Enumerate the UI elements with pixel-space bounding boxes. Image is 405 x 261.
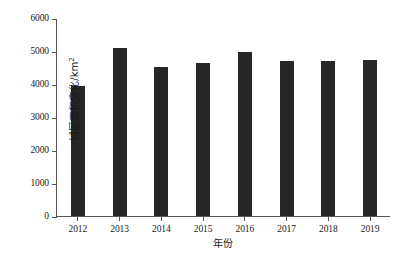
- x-axis-tick-mark: [203, 216, 204, 221]
- bar[interactable]: [196, 63, 210, 216]
- x-axis-tick-mark: [244, 216, 245, 221]
- x-axis-tick-mark: [77, 216, 78, 221]
- bar-group[interactable]: 2017: [280, 19, 294, 216]
- bar[interactable]: [238, 52, 252, 216]
- y-axis-title-text: 城区面积变化/km: [69, 62, 80, 141]
- y-axis-tick-label: 5000: [30, 45, 49, 58]
- bar-group[interactable]: 2015: [196, 19, 210, 216]
- bar-group[interactable]: 2016: [238, 19, 252, 216]
- plot-area: 0100020003000400050006000 20122013201420…: [56, 19, 390, 217]
- x-axis-tick-mark: [119, 216, 120, 221]
- bar-group[interactable]: 2018: [321, 19, 335, 216]
- y-axis-tick-label: 3000: [30, 111, 49, 124]
- x-axis-tick-mark: [370, 216, 371, 221]
- y-axis-tick-label: 6000: [30, 12, 49, 25]
- bar-group[interactable]: 2014: [154, 19, 168, 216]
- y-axis-tick-label: 1000: [30, 177, 49, 190]
- y-axis-title-exponent: 2: [68, 57, 76, 61]
- x-axis-tick-mark: [286, 216, 287, 221]
- x-axis-tick-label: 2012: [69, 223, 88, 235]
- bars-layer: 20122013201420152016201720182019: [57, 19, 390, 216]
- bar[interactable]: [113, 48, 127, 216]
- x-axis-tick-label: 2019: [361, 223, 380, 235]
- bar[interactable]: [280, 61, 294, 216]
- y-axis-tick-label: 0: [44, 210, 49, 223]
- x-axis-tick-label: 2016: [236, 223, 255, 235]
- x-axis-tick-label: 2017: [277, 223, 296, 235]
- bar[interactable]: [321, 61, 335, 216]
- y-axis-tick-label: 2000: [30, 144, 49, 157]
- y-axis-tick-mark: [52, 217, 57, 218]
- x-axis-title: 年份: [56, 238, 390, 250]
- y-axis-tick-label: 4000: [30, 78, 49, 91]
- y-axis-title: 城区面积变化/km2: [69, 19, 81, 179]
- x-axis-tick-label: 2015: [194, 223, 213, 235]
- x-axis-tick-label: 2013: [110, 223, 129, 235]
- x-axis-tick-mark: [328, 216, 329, 221]
- bar-chart: 0100020003000400050006000 20122013201420…: [0, 0, 405, 261]
- bar-group[interactable]: 2013: [113, 19, 127, 216]
- bar-group[interactable]: 2019: [363, 19, 377, 216]
- x-axis-tick-mark: [161, 216, 162, 221]
- x-axis-tick-label: 2018: [319, 223, 338, 235]
- x-axis-tick-label: 2014: [152, 223, 171, 235]
- bar[interactable]: [363, 60, 377, 216]
- bar[interactable]: [154, 67, 168, 216]
